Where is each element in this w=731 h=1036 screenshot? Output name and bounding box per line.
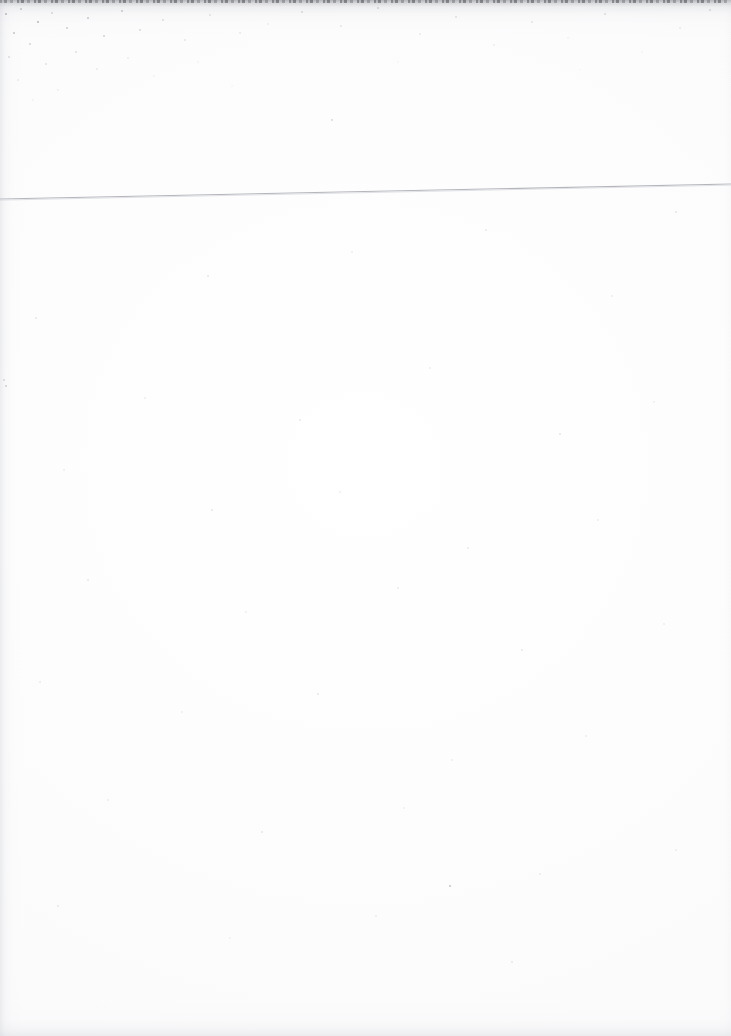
scanned-page — [0, 0, 731, 1036]
paper-background — [0, 0, 731, 1036]
